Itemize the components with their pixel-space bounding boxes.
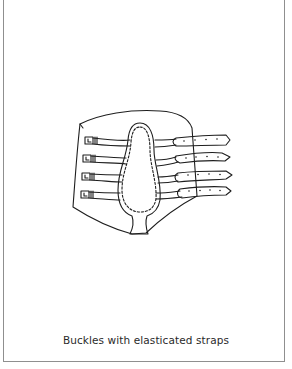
strap-4 <box>156 187 231 199</box>
strap-2 <box>156 153 230 166</box>
strap-tongue-1 <box>173 135 230 146</box>
buckle-4 <box>81 191 120 200</box>
buckle-1 <box>85 137 130 146</box>
buckle-3 <box>82 173 122 182</box>
strap-tongue-4 <box>178 187 231 198</box>
strap-tongue-2 <box>175 153 230 163</box>
figure-caption: Buckles with elasticated straps <box>0 334 292 346</box>
buckle-2 <box>83 155 126 164</box>
boot-illustration <box>0 0 292 369</box>
strap-tongue-3 <box>175 171 232 182</box>
